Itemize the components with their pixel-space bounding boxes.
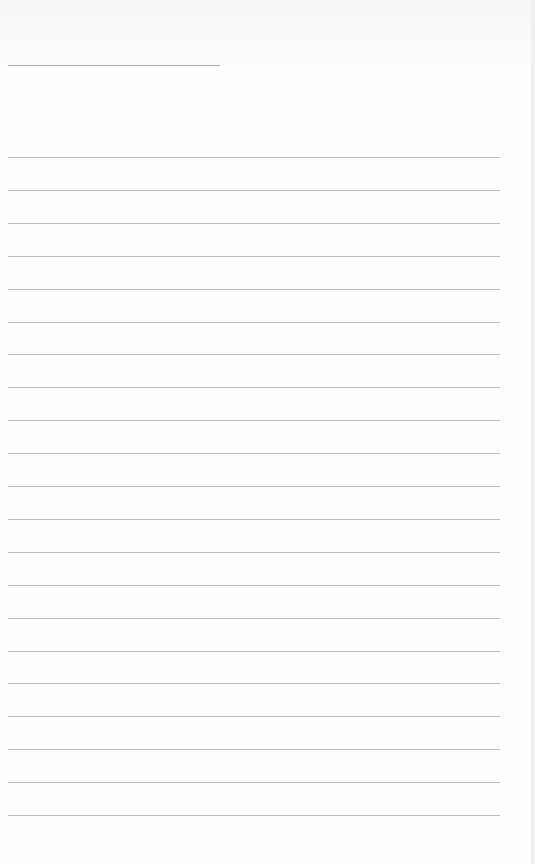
ruled-line: [8, 683, 500, 684]
ruled-line: [8, 190, 500, 191]
ruled-line: [8, 289, 500, 290]
ruled-line: [8, 782, 500, 783]
ruled-line: [8, 420, 500, 421]
title-underline: [8, 65, 220, 66]
ruled-line: [8, 749, 500, 750]
page-edge: [531, 0, 535, 864]
ruled-line: [8, 223, 500, 224]
ruled-line: [8, 651, 500, 652]
ruled-line: [8, 157, 500, 158]
ruled-line: [8, 453, 500, 454]
ruled-line: [8, 354, 500, 355]
ruled-line: [8, 716, 500, 717]
ruled-line: [8, 552, 500, 553]
notebook-page: [0, 0, 535, 864]
ruled-line: [8, 322, 500, 323]
ruled-line: [8, 519, 500, 520]
ruled-line: [8, 486, 500, 487]
ruled-line: [8, 618, 500, 619]
ruled-line: [8, 585, 500, 586]
ruled-line: [8, 815, 500, 816]
ruled-line: [8, 256, 500, 257]
ruled-line: [8, 387, 500, 388]
